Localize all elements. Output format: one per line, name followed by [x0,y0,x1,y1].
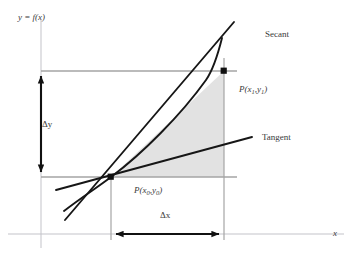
shaded-delta-triangle [111,71,224,177]
p1-sub-x: 1 [252,88,255,95]
p1-suffix: ) [264,84,267,94]
function-label: y = f(x) [18,13,45,22]
p0-sub-x: 0 [147,189,150,196]
point-marker-p0 [108,174,114,180]
point-marker-p1 [221,68,227,74]
p0-prefix: P(x [134,185,147,195]
point-label-p1: P(x1,y1) [239,85,267,94]
delta-x-label: Δx [160,211,170,220]
p0-suffix: ) [159,185,162,195]
x-axis-label: x [333,229,337,238]
p1-sub-y: 1 [261,88,264,95]
tangent-label: Tangent [262,133,291,142]
point-label-p0: P(x0,y0) [134,186,162,195]
secant-tangent-figure: y = f(x) Secant Tangent P(x1,y1) P(x0,y0… [0,0,349,255]
p0-sub-y: 0 [156,189,159,196]
p1-prefix: P(x [239,84,252,94]
secant-label: Secant [265,30,289,39]
figure-canvas [0,0,349,255]
delta-y-label: Δy [42,120,52,129]
